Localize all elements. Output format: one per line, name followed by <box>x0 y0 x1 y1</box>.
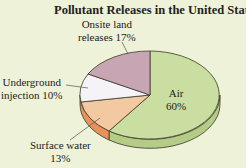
label-surface-line2: 13% <box>30 152 91 165</box>
label-onsite-line2: releases 17% <box>78 31 136 44</box>
label-surface-water: Surface water 13% <box>30 139 91 165</box>
chart-title: Pollutant Releases in the United States <box>54 3 246 18</box>
label-air-line2: 60% <box>166 100 186 113</box>
label-surface-line1: Surface water <box>30 139 91 152</box>
label-onsite-line1: Onsite land <box>78 18 136 31</box>
label-air-line1: Air <box>166 87 186 100</box>
label-underground-line2: injection 10% <box>1 89 62 102</box>
label-underground-line1: Underground <box>1 76 62 89</box>
label-air: Air 60% <box>166 87 186 113</box>
label-underground: Underground injection 10% <box>1 76 62 102</box>
label-onsite: Onsite land releases 17% <box>78 18 136 44</box>
